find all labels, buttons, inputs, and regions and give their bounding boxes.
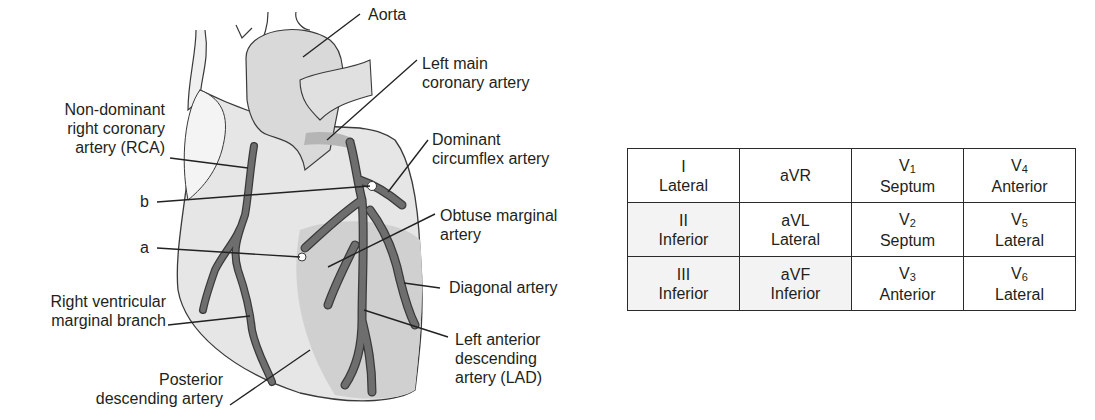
lead-name: V6 — [964, 264, 1075, 285]
ecg-table-body: ILateralaVRV1SeptumV4AnteriorIIInferiora… — [628, 149, 1076, 311]
lead-region: Anterior — [964, 177, 1075, 196]
label-line: Obtuse marginal — [440, 206, 557, 225]
label-aorta: Aorta — [368, 5, 406, 24]
lead-subscript: 5 — [1022, 217, 1028, 229]
label-line: coronary artery — [422, 73, 530, 92]
label-dominant-circumflex: Dominant circumflex artery — [432, 130, 549, 168]
ecg-table-row: IIIInferioraVFInferiorV3AnteriorV6Latera… — [628, 257, 1076, 311]
label-obtuse-marginal: Obtuse marginal artery — [440, 206, 557, 244]
lead-region: Lateral — [964, 285, 1075, 304]
lead-subscript: 1 — [910, 163, 916, 175]
ecg-table-row: ILateralaVRV1SeptumV4Anterior — [628, 149, 1076, 203]
ecg-lead-cell: IIInferior — [628, 203, 740, 257]
lead-region: Septum — [852, 231, 963, 250]
ecg-lead-cell: V5Lateral — [964, 203, 1076, 257]
lead-region: Inferior — [628, 230, 739, 249]
label-posterior-descending: Posterior descending artery — [96, 370, 223, 408]
lead-name: V5 — [964, 210, 1075, 231]
label-line: Left anterior — [455, 330, 542, 349]
label-line: Non-dominant — [65, 100, 166, 119]
label-b: b — [140, 192, 149, 211]
lead-name: III — [628, 265, 739, 284]
lead-subscript: 6 — [1022, 271, 1028, 283]
label-line: right coronary — [65, 119, 166, 138]
label-line: Posterior — [96, 370, 223, 389]
ecg-lead-cell: V6Lateral — [964, 257, 1076, 311]
label-left-main-coronary: Left main coronary artery — [422, 54, 530, 92]
lead-name: aVL — [740, 211, 851, 230]
lead-subscript: 3 — [910, 271, 916, 283]
label-line: Dominant — [432, 130, 549, 149]
lead-name: II — [628, 211, 739, 230]
label-line: descending artery — [96, 389, 223, 408]
lead-name: aVF — [740, 265, 851, 284]
lead-region: Inferior — [628, 284, 739, 303]
ecg-lead-cell: aVLLateral — [740, 203, 852, 257]
ecg-lead-cell: aVFInferior — [740, 257, 852, 311]
ecg-table-row: IIInferioraVLLateralV2SeptumV5Lateral — [628, 203, 1076, 257]
lead-subscript: 4 — [1022, 163, 1028, 175]
lead-name: V2 — [852, 210, 963, 231]
label-line: Right ventricular — [50, 292, 166, 311]
lead-region: Lateral — [740, 230, 851, 249]
ecg-lead-cell: aVR — [740, 149, 852, 203]
label-line: circumflex artery — [432, 149, 549, 168]
ecg-lead-cell: IIIInferior — [628, 257, 740, 311]
lead-region: Septum — [852, 177, 963, 196]
lead-subscript: 2 — [910, 217, 916, 229]
label-line: artery (RCA) — [65, 138, 166, 157]
label-line: marginal branch — [50, 311, 166, 330]
label-line: artery (LAD) — [455, 368, 542, 387]
label-a: a — [140, 238, 149, 257]
ecg-lead-table: ILateralaVRV1SeptumV4AnteriorIIInferiora… — [627, 148, 1076, 311]
lead-region: Anterior — [852, 285, 963, 304]
ecg-lead-cell: ILateral — [628, 149, 740, 203]
lead-name: V3 — [852, 264, 963, 285]
lead-region: Lateral — [964, 231, 1075, 250]
label-line: artery — [440, 225, 557, 244]
label-line: descending — [455, 349, 542, 368]
label-non-dominant-rca: Non-dominant right coronary artery (RCA) — [65, 100, 166, 157]
lead-region: Inferior — [740, 284, 851, 303]
label-rv-marginal-branch: Right ventricular marginal branch — [50, 292, 166, 330]
label-diagonal-artery: Diagonal artery — [449, 278, 558, 297]
ecg-lead-cell: V4Anterior — [964, 149, 1076, 203]
lead-name: aVR — [740, 166, 851, 185]
lead-name: V4 — [964, 156, 1075, 177]
label-line: Left main — [422, 54, 530, 73]
ecg-lead-cell: V1Septum — [852, 149, 964, 203]
ecg-lead-cell: V2Septum — [852, 203, 964, 257]
label-lad: Left anterior descending artery (LAD) — [455, 330, 542, 387]
lead-name: I — [628, 157, 739, 176]
lead-name: V1 — [852, 156, 963, 177]
lead-region: Lateral — [628, 176, 739, 195]
ecg-lead-cell: V3Anterior — [852, 257, 964, 311]
